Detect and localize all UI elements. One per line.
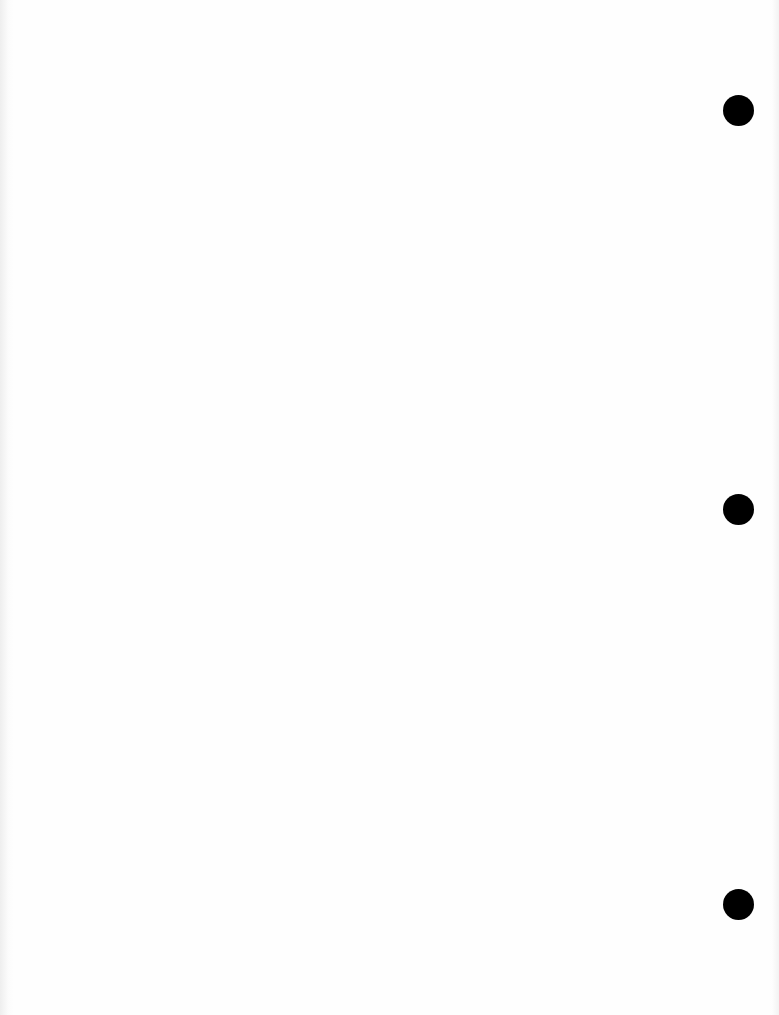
scan-edge-shadow-left — [0, 0, 14, 1015]
binder-punch-hole-middle — [723, 494, 754, 525]
binder-punch-hole-top — [723, 95, 754, 126]
scanned-page — [0, 0, 779, 1015]
binder-punch-hole-bottom — [723, 889, 754, 920]
scan-edge-shadow-right — [769, 0, 779, 1015]
